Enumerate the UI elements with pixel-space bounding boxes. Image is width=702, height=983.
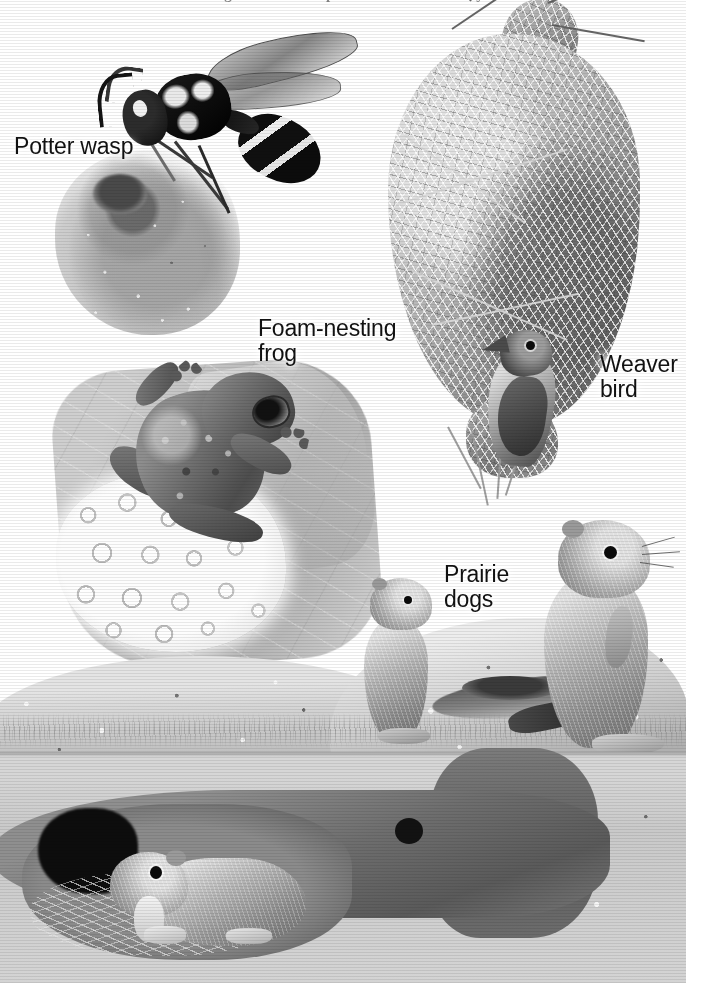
label-prairie-dogs: Prairie dogs [444,562,509,612]
page-right-margin [686,0,702,983]
prairie-dog-ear [562,520,584,538]
frog-toes-near [275,425,311,461]
label-foam-nesting-frog: Foam-nesting frog [258,316,396,366]
prairie-dog-eye [604,546,617,559]
weaver-bird [476,324,576,474]
underground-cutaway [0,752,702,983]
fur-texture [544,572,648,748]
prairie-dog-feet [378,728,430,744]
prairie-dog-large [530,498,670,768]
soil-cavity [395,818,423,844]
weaver-bird-eye [526,341,535,350]
prairie-dog-hind-paw [226,928,272,944]
potter-wasp-illustration [0,30,340,350]
prairie-dog-whisker [642,537,675,547]
label-potter-wasp: Potter wasp [14,134,133,159]
prairie-dog-ear [166,850,186,866]
prairie-dog-in-burrow [110,834,340,964]
prairie-dog-ear [372,578,387,590]
label-weaver-bird: Weaver bird [600,352,678,402]
prairie-dog-front-paw [144,926,186,944]
prairie-dog-body [544,572,648,748]
illustration-figure: are among the most complex structures bu… [0,0,702,983]
foam-nesting-frog-body [110,366,320,566]
page-caption-cropped: are among the most complex structures bu… [0,0,702,4]
prairie-dog-feet [592,734,664,754]
above-ground-scene [0,612,702,760]
prairie-dog-eye [404,596,412,604]
prairie-dog-eye [150,866,162,879]
prairie-dog-body [364,618,428,740]
fur-texture [364,618,428,740]
weaver-bird-illustration [352,0,652,554]
prairie-dog-small [356,564,448,754]
